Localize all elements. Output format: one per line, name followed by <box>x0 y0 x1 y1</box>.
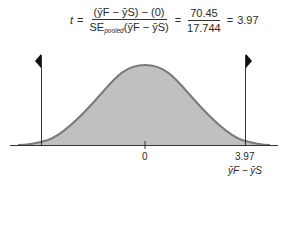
tick-label-3-97: 3.97 <box>235 151 254 162</box>
x-axis-label: ȳF − ȳS <box>228 165 262 176</box>
tick-label-zero: 0 <box>142 151 148 162</box>
right-flag-icon <box>246 54 252 68</box>
bell-curve-area <box>18 65 270 145</box>
left-flag-icon <box>35 54 41 68</box>
